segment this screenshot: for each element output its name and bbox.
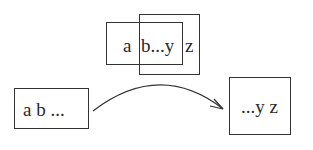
curved-arrow <box>0 0 313 150</box>
